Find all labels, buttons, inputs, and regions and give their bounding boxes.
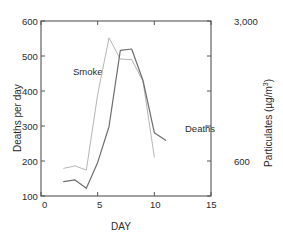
data-lines bbox=[64, 38, 166, 189]
axes-frame bbox=[41, 21, 211, 196]
plot-area bbox=[0, 0, 283, 249]
axis-ticks bbox=[41, 21, 211, 196]
chart-figure: 600 500 400 300 200 100 3,000 600 0 5 10… bbox=[0, 0, 283, 249]
